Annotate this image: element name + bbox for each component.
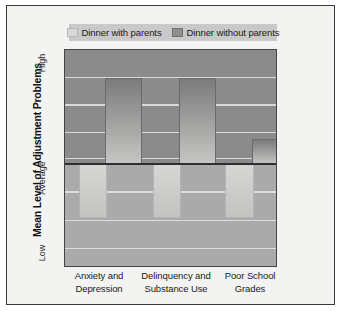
bar-dinner-with-parents-delinquency-and-substance-use [153, 163, 181, 218]
gridline [65, 77, 276, 78]
bar-dinner-with-parents-anxiety-and-depression [79, 163, 107, 218]
x-category-label-anxiety-and-depression: Anxiety and Depression [61, 270, 137, 295]
y-tick-label-average: Average [37, 152, 47, 204]
x-category-line: Substance Use [133, 283, 219, 296]
y-tick-label-high: High [37, 43, 47, 83]
x-category-label-delinquency-and-substance-use: Delinquency and Substance Use [133, 270, 219, 295]
average-baseline [65, 163, 276, 165]
x-category-label-poor-school-grades: Poor School Grades [213, 270, 287, 295]
legend-entry-dinner-without-parents[interactable]: Dinner without parents [172, 27, 280, 38]
x-category-line: Depression [61, 283, 137, 296]
y-tick-label-low: Low [37, 235, 47, 271]
legend-entry-dinner-with-parents[interactable]: Dinner with parents [67, 27, 162, 38]
legend-swatch-light-icon [67, 28, 78, 37]
bar-dinner-without-parents-delinquency-and-substance-use [179, 78, 216, 165]
x-category-line: Delinquency and [133, 270, 219, 283]
bar-dinner-without-parents-anxiety-and-depression [105, 78, 142, 165]
legend-swatch-dark-icon [172, 28, 183, 37]
gridline [65, 220, 276, 221]
chart-legend: Dinner with parents Dinner without paren… [69, 24, 277, 41]
bar-dinner-without-parents-poor-school-grades [252, 139, 277, 166]
gridline [65, 104, 276, 105]
x-category-line: Grades [213, 283, 287, 296]
x-category-line: Anxiety and [61, 270, 137, 283]
gridline [65, 132, 276, 133]
legend-label-dinner-with-parents: Dinner with parents [82, 27, 162, 38]
bar-dinner-with-parents-poor-school-grades [225, 163, 253, 218]
x-category-line: Poor School [213, 270, 287, 283]
chart-figure: Dinner with parents Dinner without paren… [6, 5, 335, 305]
gridline [65, 158, 276, 159]
gridline [65, 248, 276, 249]
legend-label-dinner-without-parents: Dinner without parents [187, 27, 280, 38]
plot-area [64, 49, 277, 267]
